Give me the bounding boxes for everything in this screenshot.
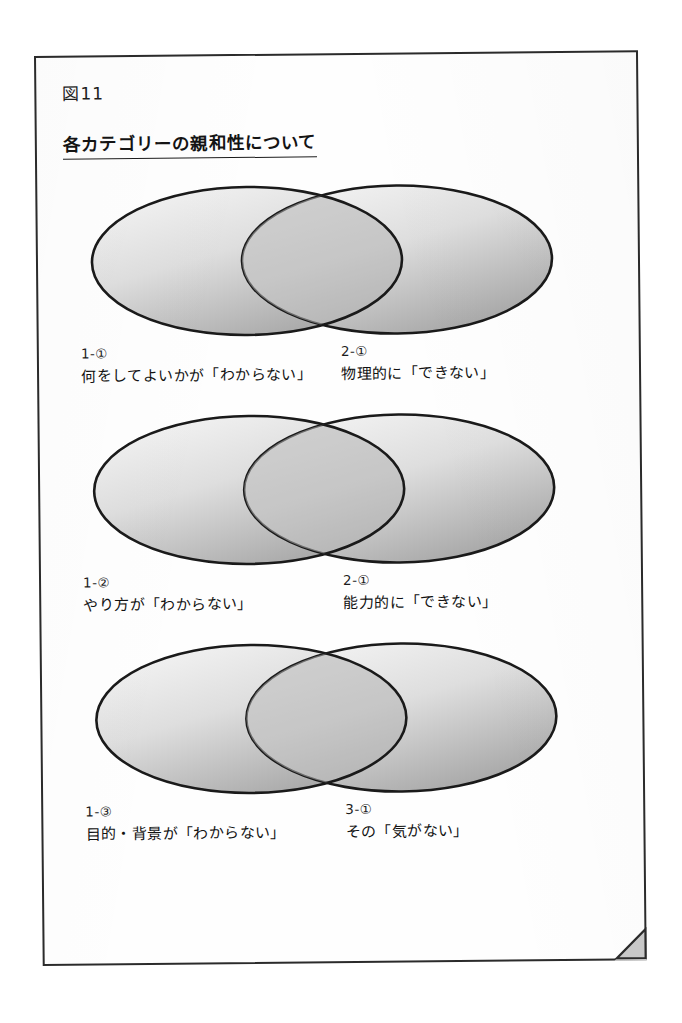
- label-text: 何をしてよいかが「わからない」: [81, 364, 312, 388]
- venn-2-labels: 1-② やり方が「わからない」 2-① 能力的に「できない」: [75, 569, 595, 626]
- scanned-page-sheet: 図11 各カテゴリーの親和性について: [34, 50, 647, 966]
- label-text: 能力的に「できない」: [343, 591, 497, 614]
- venn-diagram-1: [71, 177, 573, 345]
- figure-caption: 図11: [62, 74, 618, 104]
- venn-3-left-label: 1-③ 目的・背景が「わからない」: [85, 801, 286, 846]
- label-code: 1-②: [83, 572, 253, 593]
- label-code: 2-①: [343, 570, 497, 591]
- venn-diagram-3: [76, 635, 578, 803]
- label-code: 2-①: [341, 341, 495, 362]
- venn-2-right-label: 2-① 能力的に「できない」: [343, 570, 497, 615]
- venn-1-labels: 1-① 何をしてよいかが「わからない」 2-① 物理的に「できない」: [73, 340, 593, 397]
- label-text: 物理的に「できない」: [341, 362, 495, 385]
- venn-1-right-label: 2-① 物理的に「できない」: [341, 341, 495, 386]
- label-code: 3-①: [345, 799, 468, 820]
- label-text: やり方が「わからない」: [83, 593, 253, 616]
- label-code: 1-③: [85, 801, 285, 822]
- venn-1-left-label: 1-① 何をしてよいかが「わからない」: [81, 342, 312, 388]
- venn-diagram-2: [73, 406, 575, 574]
- venn-2-left-label: 1-② やり方が「わからない」: [83, 572, 253, 617]
- label-text: その「気がない」: [345, 820, 468, 843]
- label-code: 1-①: [81, 342, 312, 364]
- venn-group-1: 1-① 何をしてよいかが「わからない」 2-① 物理的に「できない」: [63, 176, 621, 396]
- venn-group-3: 1-③ 目的・背景が「わからない」 3-① その「気がない」: [68, 634, 626, 854]
- page-content: 図11 各カテゴリーの親和性について: [62, 74, 626, 955]
- venn-3-right-label: 3-① その「気がない」: [345, 799, 469, 843]
- venn-group-2: 1-② やり方が「わからない」 2-① 能力的に「できない」: [65, 405, 623, 625]
- page-title: 各カテゴリーの親和性について: [63, 128, 317, 159]
- page-curl-icon: [613, 927, 647, 961]
- venn-3-labels: 1-③ 目的・背景が「わからない」 3-① その「気がない」: [77, 798, 597, 855]
- label-text: 目的・背景が「わからない」: [85, 822, 285, 846]
